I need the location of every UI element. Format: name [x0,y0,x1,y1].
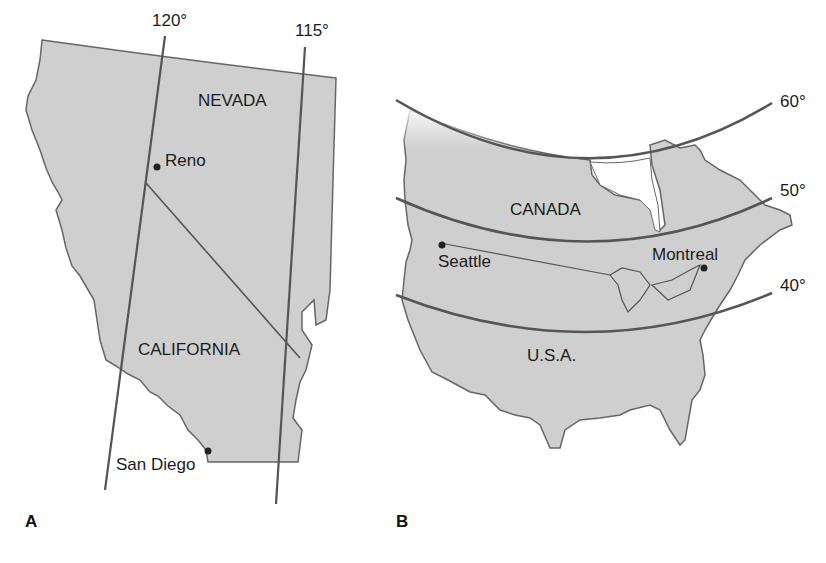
seattle-label: Seattle [438,253,491,270]
parallel-60-label: 60° [780,93,806,110]
map-figure [0,0,826,563]
north-america-landmass [402,110,792,448]
meridian-115-label: 115° [295,22,329,39]
san-diego-label: San Diego [116,456,195,473]
california-label: CALIFORNIA [138,341,240,358]
nevada-label: NEVADA [198,92,267,109]
usa-label: U.S.A. [527,347,576,364]
parallel-50-label: 50° [780,182,806,199]
parallel-40-label: 40° [780,277,806,294]
seattle-dot [439,242,446,249]
canada-label: CANADA [510,201,581,218]
meridian-120-label: 120° [152,12,187,29]
reno-label: Reno [165,152,206,169]
panel-b-label: B [396,513,408,530]
montreal-dot [701,265,708,272]
panel-a-label: A [25,513,37,530]
montreal-label: Montreal [652,246,718,263]
nevada-california-landmass [26,40,336,462]
san-diego-dot [205,448,212,455]
reno-dot [154,164,161,171]
